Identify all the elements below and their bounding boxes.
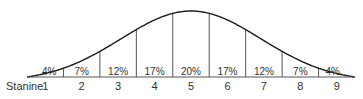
stanine-label: 5 <box>188 80 194 92</box>
stanine-label: 6 <box>224 80 230 92</box>
percentage-label: 7% <box>293 66 308 77</box>
axis-label-stanine: Stanine <box>6 80 43 92</box>
stanine-tick-labels: 123456789 <box>42 80 340 92</box>
percentage-label: 4% <box>42 66 57 77</box>
percentage-label: 17% <box>145 66 165 77</box>
stanine-label: 7 <box>261 80 267 92</box>
stanine-label: 9 <box>334 80 340 92</box>
stanine-label: 4 <box>151 80 157 92</box>
percentage-label: 12% <box>108 66 128 77</box>
stanine-label: 3 <box>115 80 121 92</box>
percentage-label: 20% <box>181 66 201 77</box>
percentage-label: 4% <box>326 66 341 77</box>
percentage-label: 7% <box>74 66 89 77</box>
percentage-labels: 4%7%12%17%20%17%12%7%4% <box>42 66 340 77</box>
percentage-label: 17% <box>217 66 237 77</box>
percentage-label: 12% <box>254 66 274 77</box>
stanine-label: 8 <box>297 80 303 92</box>
stanine-distribution-chart: 4%7%12%17%20%17%12%7%4% 123456789 Stanin… <box>0 0 363 99</box>
stanine-label: 2 <box>79 80 85 92</box>
